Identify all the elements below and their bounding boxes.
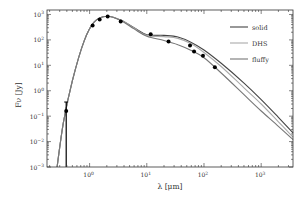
data-point: [64, 109, 68, 113]
y-tick-label: 101: [33, 61, 44, 69]
data-point: [167, 40, 171, 44]
y-tick-label: 10−3: [30, 163, 44, 171]
axis-ticks: [47, 10, 293, 167]
data-point: [188, 44, 192, 48]
y-tick-label: 10−1: [30, 112, 44, 120]
y-axis-label: Fν [Jy]: [14, 82, 23, 107]
x-tick-label: 102: [198, 171, 209, 179]
data-point: [91, 23, 95, 27]
sed-chart: 10010110210310−310−210−1100101102103 λ […: [0, 0, 307, 198]
data-point: [98, 17, 102, 21]
x-tick-label: 101: [141, 171, 152, 179]
observation-points: [64, 14, 217, 167]
x-tick-label: 100: [83, 171, 94, 179]
x-tick-label: 103: [255, 171, 266, 179]
legend: solidDHSfluffy: [230, 24, 269, 64]
legend-label: DHS: [252, 40, 267, 48]
data-point: [119, 19, 123, 23]
data-point: [192, 49, 196, 53]
y-tick-label: 102: [33, 36, 44, 44]
data-point: [106, 14, 110, 18]
plot-frame: [47, 10, 293, 167]
data-point: [149, 32, 153, 36]
y-tick-label: 103: [33, 10, 44, 18]
y-tick-label: 100: [33, 87, 44, 95]
legend-label: fluffy: [252, 56, 269, 64]
data-point: [201, 54, 205, 58]
data-point: [213, 65, 217, 69]
legend-label: solid: [252, 24, 268, 32]
x-axis-label: λ [μm]: [158, 182, 183, 191]
y-tick-label: 10−2: [30, 138, 44, 146]
